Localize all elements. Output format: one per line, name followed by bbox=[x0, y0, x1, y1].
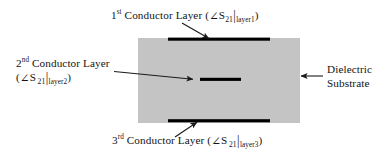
layer2-label-line2: (∠S21|layer2) bbox=[16, 70, 110, 85]
conductor-layer-1-bar bbox=[168, 38, 270, 41]
conductor-layer-2-label: 2nd Conductor Layer (∠S21|layer2) bbox=[16, 56, 110, 85]
layer3-pipe: | bbox=[237, 134, 240, 149]
leader-line-top bbox=[182, 23, 209, 39]
layer2-label-line1: 2nd Conductor Layer bbox=[16, 56, 110, 70]
layer2-paren-close: ) bbox=[67, 71, 71, 83]
layer3-symbol-subscript: 21 bbox=[229, 140, 237, 149]
conductor-layer-3-bar bbox=[168, 119, 270, 122]
layer3-ordinal-suffix: rd bbox=[118, 133, 124, 141]
angle-icon: ∠ bbox=[20, 72, 30, 86]
figure-canvas: 1st Conductor Layer (∠S21|layer1) 2nd Co… bbox=[0, 0, 388, 161]
dielectric-substrate-line1: Dielectric bbox=[327, 62, 372, 76]
layer2-symbol-subscript: 21 bbox=[38, 77, 46, 86]
conductor-layer-1-label: 1st Conductor Layer (∠S21|layer1) bbox=[111, 9, 259, 22]
layer2-pipe: | bbox=[46, 69, 49, 85]
angle-icon: ∠ bbox=[211, 135, 221, 148]
layer1-ordinal-suffix: st bbox=[117, 8, 122, 16]
layer1-paren-close: ) bbox=[255, 9, 259, 21]
layer2-name: Conductor Layer bbox=[32, 57, 110, 69]
layer2-condition: layer2 bbox=[49, 78, 68, 86]
dielectric-substrate-line2: Substrate bbox=[327, 76, 372, 90]
angle-icon: ∠ bbox=[209, 10, 219, 23]
conductor-layer-3-label: 3rd Conductor Layer (∠S21|layer3) bbox=[112, 134, 262, 147]
layer3-symbol: S bbox=[221, 134, 227, 146]
layer1-name: Conductor Layer bbox=[125, 9, 203, 21]
layer2-symbol: S bbox=[30, 71, 36, 83]
conductor-layer-2-bar bbox=[200, 78, 241, 81]
layer3-paren-close: ) bbox=[258, 134, 262, 146]
layer2-ordinal-suffix: nd bbox=[22, 56, 29, 64]
layer3-condition: layer3 bbox=[240, 141, 259, 149]
dielectric-substrate-label: Dielectric Substrate bbox=[327, 62, 372, 90]
layer1-condition: layer1 bbox=[236, 16, 255, 24]
layer3-name: Conductor Layer bbox=[127, 134, 205, 146]
layer1-symbol-subscript: 21 bbox=[225, 15, 233, 24]
layer1-pipe: | bbox=[233, 9, 236, 24]
